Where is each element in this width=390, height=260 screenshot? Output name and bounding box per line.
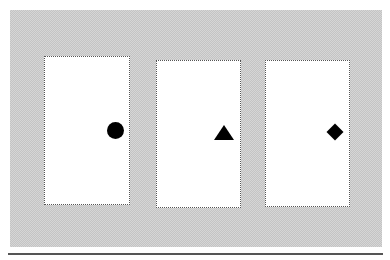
card-circle[interactable] bbox=[44, 56, 130, 205]
card-diamond[interactable] bbox=[265, 60, 350, 207]
circle-icon bbox=[107, 122, 124, 139]
card-panel bbox=[10, 10, 382, 247]
card-triangle[interactable] bbox=[156, 60, 241, 208]
diamond-icon bbox=[327, 124, 344, 141]
triangle-icon bbox=[214, 125, 234, 140]
divider-line bbox=[8, 253, 383, 255]
